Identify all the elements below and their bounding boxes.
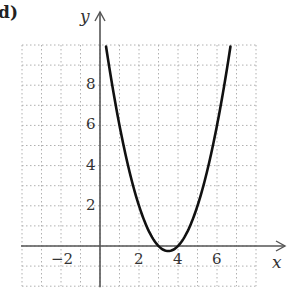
y-tick-label: 2 — [86, 196, 96, 214]
x-tick-label: −2 — [51, 250, 73, 268]
y-tick-label: 4 — [86, 156, 96, 174]
x-tick-label: 4 — [173, 250, 183, 268]
x-tick-label: 6 — [212, 250, 222, 268]
parabola-chart — [0, 0, 290, 291]
x-axis-label: x — [272, 252, 282, 272]
y-tick-label: 8 — [86, 75, 96, 93]
part-label: d) — [0, 2, 18, 22]
parabola-curve — [106, 46, 230, 251]
y-tick-label: 6 — [86, 115, 96, 133]
y-axis-label: y — [80, 6, 90, 26]
x-tick-label: 2 — [134, 250, 144, 268]
